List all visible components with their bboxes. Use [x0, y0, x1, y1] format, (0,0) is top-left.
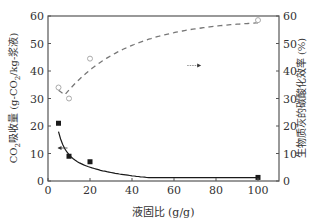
x-tick-label: 40: [125, 184, 139, 197]
x-tick-label: 100: [248, 184, 269, 197]
x-tick-label: 80: [209, 184, 223, 197]
y-tick-label: 60: [30, 10, 44, 23]
y-tick-label: 30: [30, 93, 44, 106]
x-tick-label: 0: [45, 184, 52, 197]
chart-svg: 02040608010001020304050600102030405060 液…: [0, 0, 316, 224]
carbonation-efficiency-point: [256, 18, 261, 23]
y2-tick-label: 0: [283, 175, 290, 188]
x-tick-label: 60: [167, 184, 181, 197]
y-tick-label: 10: [30, 148, 44, 161]
x-axis-label: 液固比 (g/g): [132, 205, 195, 219]
y2-tick-label: 20: [283, 120, 297, 133]
axes: 02040608010001020304050600102030405060: [30, 10, 297, 197]
co2-absorption-fit-curve: [59, 132, 259, 178]
arrow-right-icon: [197, 64, 201, 68]
y-tick-label: 40: [30, 65, 44, 78]
carbonation-efficiency-point: [56, 85, 61, 90]
y2-axis-label: 生物质灰的碳酸化效率 (%): [295, 38, 307, 159]
carbonation-efficiency-point: [88, 56, 93, 61]
plot-area: [56, 18, 261, 180]
chart-container: 02040608010001020304050600102030405060 液…: [0, 0, 316, 224]
y-tick-label: 50: [30, 38, 44, 51]
y-tick-label: 0: [37, 175, 44, 188]
co2-absorption-point: [67, 154, 72, 159]
co2-absorption-point: [56, 121, 61, 126]
y2-tick-label: 60: [283, 10, 297, 23]
y2-tick-label: 30: [283, 93, 297, 106]
arrow-left-icon: [58, 146, 62, 150]
y2-tick-label: 50: [283, 38, 297, 51]
y-axis-label: CO2吸收量 (g-CO2/kg-浆液): [7, 33, 22, 164]
y2-tick-label: 40: [283, 65, 297, 78]
x-tick-label: 20: [83, 184, 97, 197]
co2-absorption-point: [88, 159, 93, 164]
y-tick-label: 20: [30, 120, 44, 133]
carbonation-efficiency-point: [67, 96, 72, 101]
y2-tick-label: 10: [283, 148, 297, 161]
plot-frame: [48, 16, 279, 181]
